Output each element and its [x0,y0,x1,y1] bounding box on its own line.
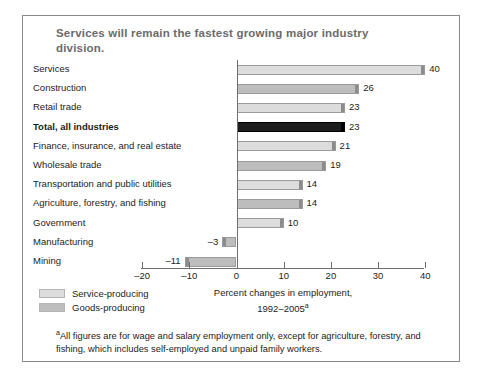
figure-frame: Services will remain the fastest growing… [22,15,460,362]
chart-row: Retail trade23 [23,99,461,118]
bar-end-cap [223,238,226,246]
x-axis-tick-label: 10 [264,270,304,282]
chart-row: Services40 [23,61,461,80]
bar-value-label: 23 [349,101,360,113]
plot-area: Services40Construction26Retail trade23To… [23,61,461,266]
zero-axis-line [237,60,238,268]
bar-service [237,141,336,151]
x-axis-tick-label: –20 [122,270,162,282]
chart-row: Finance, insurance, and real estate21 [23,138,461,157]
chart-row: Agriculture, forestry, and fishing14 [23,195,461,214]
x-axis-line [141,268,424,269]
chart-row: Transportation and public utilities14 [23,176,461,195]
chart-row: Total, all industries23 [23,119,461,138]
bar-end-cap [299,181,302,189]
bar-goods [237,161,327,171]
footnote: aAll figures are for wage and salary emp… [56,326,436,356]
x-axis-tick [189,262,190,268]
x-axis-tick-label: –10 [169,270,209,282]
bar-end-cap [355,85,358,93]
x-axis-tick [237,262,238,268]
bar-end-cap [341,123,344,131]
category-label: Agriculture, forestry, and fishing [33,197,233,209]
x-axis-tick-label: 30 [358,270,398,282]
category-label: Services [33,63,233,75]
x-axis-title-line1: Percent changes in employment, [214,287,352,298]
bar-goods [222,237,236,247]
bar-end-cap [186,258,189,266]
x-axis-title-footnote-marker: a [305,302,309,309]
category-label: Construction [33,82,233,94]
legend-swatch-goods [39,303,65,312]
bar-value-label: 26 [363,82,374,94]
bar-service [237,103,346,113]
x-axis-tick-label: 20 [311,270,351,282]
category-label: Government [33,217,233,229]
bar-value-label: 14 [307,178,318,190]
bar-end-cap [322,162,325,170]
category-label: Retail trade [33,101,233,113]
bar-end-cap [299,200,302,208]
legend-swatch-service [39,289,65,298]
chart-row: Government10 [23,215,461,234]
category-label: Wholesale trade [33,159,233,171]
bar-value-label: 14 [307,197,318,209]
x-axis-title-line2: 1992–2005 [257,303,305,314]
bar-value-label: 21 [340,140,351,152]
x-axis-tick [378,262,379,268]
chart-row: Construction26 [23,80,461,99]
bar-value-label: 23 [349,121,360,133]
bar-goods [237,84,360,94]
bar-service [237,218,284,228]
bar-service [237,65,426,75]
bar-goods [185,257,237,267]
bar-end-cap [421,66,424,74]
bar-end-cap [332,142,335,150]
category-label: Transportation and public utilities [33,178,233,190]
bar-goods [237,199,303,209]
x-axis-tick [142,262,143,268]
bar-value-label: –11 [163,255,181,267]
chart-row: Wholesale trade19 [23,157,461,176]
x-axis-tick-label: 40 [405,270,445,282]
bar-value-label: –3 [200,236,218,248]
category-label: Total, all industries [33,121,233,133]
x-axis-tick-label: 0 [217,270,257,282]
footnote-text: All figures are for wage and salary empl… [56,331,421,354]
bar-value-label: 19 [330,159,341,171]
x-axis-title: Percent changes in employment, 1992–2005… [168,287,398,315]
bar-value-label: 40 [429,63,440,75]
x-axis-tick [331,262,332,268]
legend-label: Service-producing [72,288,149,300]
legend-label: Goods-producing [72,302,145,314]
chart-title: Services will remain the fastest growing… [56,26,386,56]
bar-service [237,180,303,190]
bar-end-cap [280,219,283,227]
x-axis-tick [425,262,426,268]
bar-total [237,122,346,132]
bar-end-cap [341,104,344,112]
chart-row: Manufacturing–3 [23,234,461,253]
x-axis-tick [284,262,285,268]
category-label: Finance, insurance, and real estate [33,140,233,152]
bar-value-label: 10 [288,217,299,229]
